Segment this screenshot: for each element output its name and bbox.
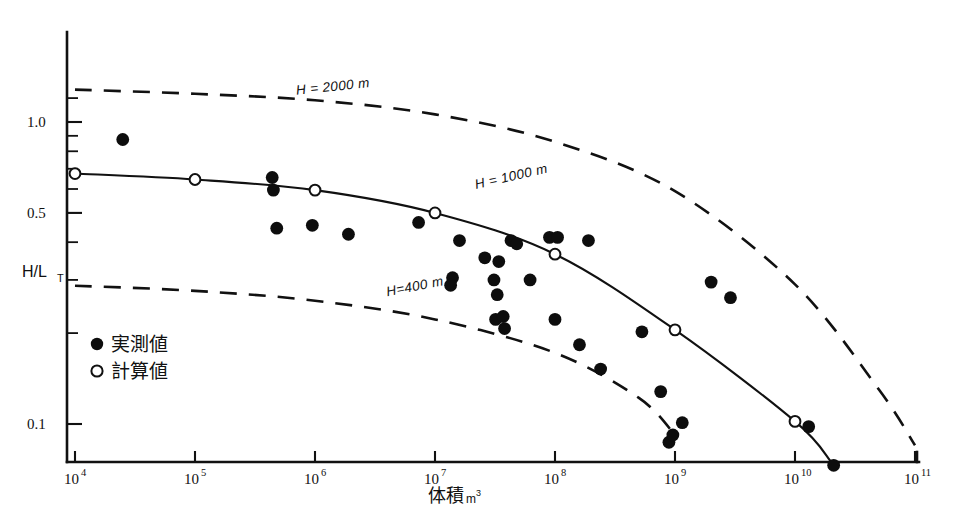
x-axis-ticks: 10410510610710810910101011 — [64, 451, 931, 487]
data-point-measured — [524, 274, 537, 287]
x-tick-label-exponent: 4 — [81, 467, 87, 478]
curve-label: H=400 m — [385, 273, 445, 299]
x-tick-label: 10 — [184, 471, 199, 487]
data-point-measured — [478, 251, 491, 264]
data-point-measured — [488, 274, 501, 287]
x-tick-label: 10 — [64, 471, 79, 487]
data-point-measured — [270, 222, 283, 235]
x-axis-title-unit: m — [466, 492, 476, 506]
x-tick-label-exponent: 7 — [441, 467, 446, 478]
curve-label: H = 2000 m — [295, 75, 370, 98]
data-point-calculated — [550, 249, 561, 260]
data-point-measured — [444, 279, 457, 292]
legend-marker-filled-circle — [91, 338, 103, 350]
data-point-measured — [453, 234, 466, 247]
x-tick-label: 10 — [904, 471, 919, 487]
data-point-calculated — [430, 208, 441, 219]
data-point-calculated — [190, 174, 201, 185]
data-point-calculated — [310, 185, 321, 196]
y-tick-label: 0.5 — [27, 205, 46, 221]
data-point-measured — [267, 184, 280, 197]
data-point-measured — [498, 322, 511, 335]
y-tick-label: 1.0 — [27, 114, 46, 130]
y-axis-title: H/L T — [22, 263, 64, 284]
x-tick-label: 10 — [304, 471, 319, 487]
data-point-measured — [266, 171, 279, 184]
data-point-measured — [510, 237, 523, 250]
curve-annotations: H = 2000 mH = 1000 mH=400 m — [295, 75, 549, 299]
y-axis-title-sub: T — [57, 272, 64, 284]
x-tick-label-exponent: 9 — [681, 467, 686, 478]
data-point-calculated — [790, 416, 801, 427]
data-point-measured — [676, 416, 689, 429]
y-tick-label: 0.1 — [27, 416, 46, 432]
data-point-measured — [582, 234, 595, 247]
legend-label-measured: 実測値 — [111, 333, 168, 355]
data-point-measured — [705, 276, 718, 289]
data-point-measured — [802, 420, 815, 433]
data-point-measured — [666, 429, 679, 442]
x-tick-label-exponent: 11 — [921, 467, 931, 478]
data-point-measured — [549, 313, 562, 326]
calculated-data-points — [70, 168, 801, 427]
x-tick-label-exponent: 10 — [801, 467, 812, 478]
x-axis-title-unit-exponent: 3 — [476, 488, 481, 498]
data-point-measured — [654, 385, 667, 398]
data-point-measured — [306, 219, 319, 232]
data-point-measured — [492, 255, 505, 268]
chart-canvas: 10410510610710810910101011 1.00.50.1 H =… — [0, 0, 959, 518]
x-tick-label-exponent: 6 — [321, 467, 326, 478]
data-point-measured — [116, 133, 129, 146]
data-point-measured — [573, 338, 586, 351]
data-point-measured — [342, 228, 355, 241]
data-point-calculated — [70, 168, 81, 179]
x-tick-label: 10 — [784, 471, 799, 487]
legend-label-calculated: 計算値 — [111, 360, 168, 382]
x-tick-label: 10 — [544, 471, 559, 487]
x-axis-title-main: 体積 — [428, 485, 464, 506]
x-tick-label: 10 — [664, 471, 679, 487]
legend: 実測値 計算値 — [91, 333, 168, 382]
data-point-calculated — [670, 324, 681, 335]
data-point-measured — [636, 325, 649, 338]
figure-root: 10410510610710810910101011 1.00.50.1 H =… — [0, 0, 959, 518]
curve-label: H = 1000 m — [473, 161, 549, 192]
curve-solid — [75, 174, 831, 462]
curve-dashed — [75, 90, 915, 446]
data-point-measured — [491, 288, 504, 301]
data-point-measured — [827, 459, 840, 472]
x-tick-label-exponent: 5 — [201, 467, 206, 478]
data-point-measured — [551, 231, 564, 244]
data-point-measured — [594, 363, 607, 376]
y-axis-title-main: H/L — [22, 263, 47, 280]
data-point-measured — [724, 291, 737, 304]
x-axis-title: 体積 m 3 — [428, 485, 481, 506]
data-point-measured — [412, 216, 425, 229]
plot-axes — [67, 32, 919, 462]
data-point-measured — [497, 310, 510, 323]
x-tick-label-exponent: 8 — [561, 467, 566, 478]
legend-marker-open-circle — [91, 365, 102, 376]
